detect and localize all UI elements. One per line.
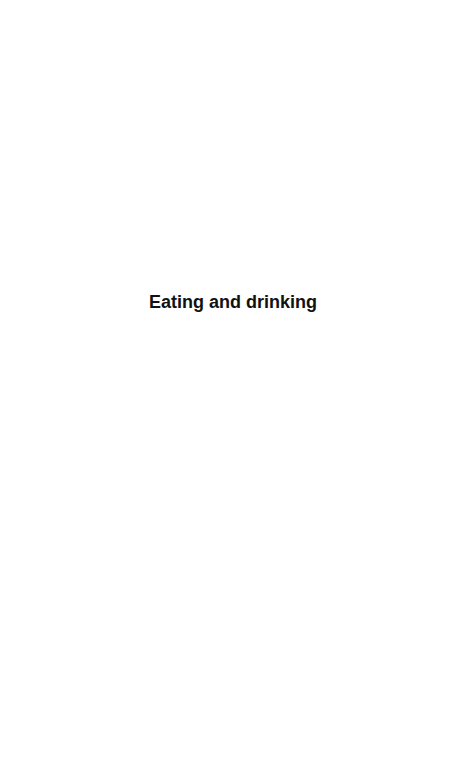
document-page: Eating and drinking (0, 0, 466, 765)
section-title: Eating and drinking (0, 290, 466, 314)
